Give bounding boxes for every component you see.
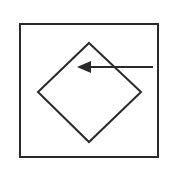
diagram-canvas — [0, 0, 172, 169]
arrowhead-icon — [77, 61, 91, 73]
diamond-shape — [38, 43, 141, 142]
